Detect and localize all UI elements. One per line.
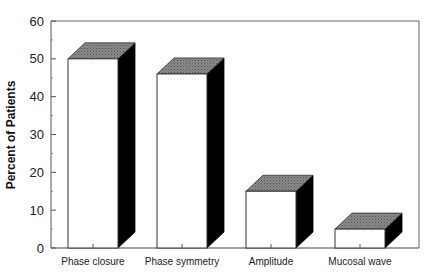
y-axis: 0102030405060 [30, 14, 56, 256]
y-tick-label: 10 [30, 203, 44, 218]
bar [335, 213, 402, 248]
bar-chart: 0102030405060 Phase closurePhase symmetr… [0, 0, 437, 276]
y-tick-label: 20 [30, 165, 44, 180]
y-tick-label: 0 [37, 241, 44, 256]
x-category-label: Phase closure [61, 256, 125, 267]
bar [246, 175, 313, 248]
y-tick-label: 60 [30, 14, 44, 29]
x-category-label: Mucosal wave [328, 256, 392, 267]
bars [68, 43, 402, 248]
y-tick-label: 40 [30, 89, 44, 104]
y-tick-label: 50 [30, 51, 44, 66]
y-tick-label: 30 [30, 127, 44, 142]
bar [68, 43, 135, 248]
y-axis-label: Percent of Patients [4, 80, 18, 189]
x-category-label: Phase symmetry [145, 256, 219, 267]
bar [157, 58, 224, 248]
x-category-label: Amplitude [249, 256, 294, 267]
